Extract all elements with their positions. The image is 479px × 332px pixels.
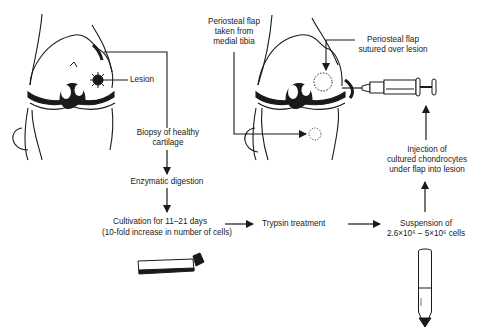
syringe-icon [342,78,436,96]
lesion-marker-icon [90,72,106,88]
injection-label: Injection of cultured chondrocytes under… [380,145,474,175]
flap-taken-label-line2: taken from [198,27,270,37]
diagram-canvas: Lesion Biopsy of healthy cartilage Enzym… [0,0,479,332]
lesion-label: Lesion [130,75,154,85]
suspension-label: Suspension of 2.6×10⁶ – 5×10⁶ cells [378,219,474,239]
left-knee-illustration [13,14,115,160]
flap-sutured-label-line2: sutured over lesion [352,45,434,55]
culture-flask-icon [138,253,204,274]
enzymatic-digestion-label: Enzymatic digestion [115,177,219,187]
flap-sutured-label: Periosteal flap sutured over lesion [352,35,434,55]
cultivation-label-line2: (10-fold increase in number of cells) [92,228,242,238]
flap-taken-label-line1: Periosteal flap [198,17,270,27]
injection-label-line1: Injection of [380,145,474,155]
biopsy-label-line2: cartilage [130,138,206,148]
biopsy-label-line1: Biopsy of healthy [130,128,206,138]
trypsin-treatment-label: Trypsin treatment [262,219,325,229]
flap-sutured-label-line1: Periosteal flap [352,35,434,45]
injection-label-line3: under flap into lesion [380,165,474,175]
sutured-flap-icon [314,73,332,91]
flap-taken-label: Periosteal flap taken from medial tibia [198,17,270,47]
flap-taken-label-line3: medial tibia [198,37,270,47]
cultivation-label: Cultivation for 11–21 days [95,217,225,227]
biopsy-label: Biopsy of healthy cartilage [130,128,206,148]
suspension-label-line2: 2.6×10⁶ – 5×10⁶ cells [378,229,474,239]
cultivation-label-line1: Cultivation for 11–21 days [95,217,225,227]
biopsy-connector [104,52,167,128]
suspension-label-line1: Suspension of [378,219,474,229]
cultivation-detail-label: (10-fold increase in number of cells) [92,228,242,238]
flap-sutured-connector [326,40,355,70]
injection-label-line2: cultured chondrocytes [380,155,474,165]
tibia-flap-site-icon [309,128,321,140]
test-tube-icon [419,249,432,327]
